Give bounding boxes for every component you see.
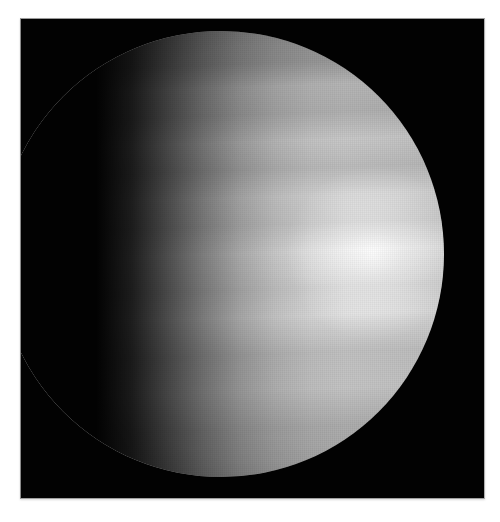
page-canvas [0,0,500,522]
photo-frame [20,18,485,499]
terminator-shadow [20,31,444,477]
planet-venus [20,31,444,477]
